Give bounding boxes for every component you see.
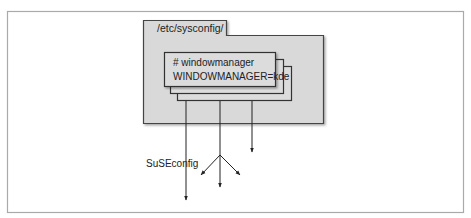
folder-label: /etc/sysconfig/ <box>157 22 224 34</box>
config-value-line: WINDOWMANAGER=kde <box>173 71 290 82</box>
suseconfig-label: SuSEconfig <box>146 158 198 169</box>
config-file-stack: # windowmanager WINDOWMANAGER=kde <box>165 53 292 101</box>
diagram-canvas: /etc/sysconfig/ # windowmanager WINDOWMA… <box>0 0 471 218</box>
config-comment-line: # windowmanager <box>173 57 255 68</box>
